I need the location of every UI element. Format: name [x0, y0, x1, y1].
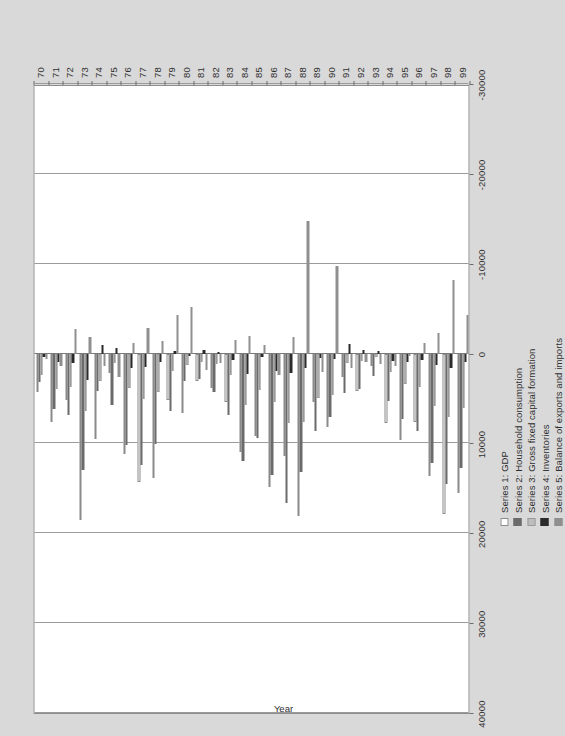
- bar-s4-99: [464, 354, 466, 362]
- bar-s3-79: [171, 354, 173, 371]
- year-group-82: [208, 86, 223, 713]
- year-tick-label: 97: [427, 67, 438, 78]
- year-tick-label: 82: [209, 67, 220, 78]
- year-tick-label: 84: [238, 67, 249, 78]
- year-tick-label: 91: [340, 67, 351, 78]
- bar-s5-85: [263, 345, 265, 354]
- value-tick-label: -30000: [475, 70, 486, 101]
- chart-figure: 400003000020000100000-10000-20000-30000 …: [0, 0, 565, 736]
- bar-s5-76: [132, 343, 134, 354]
- year-group-83: [223, 86, 238, 713]
- year-group-85: [252, 86, 267, 713]
- year-tick-83: [222, 81, 223, 85]
- year-tick-label: 81: [195, 67, 206, 78]
- year-group-84: [237, 86, 252, 713]
- year-tick-label: 79: [166, 67, 177, 78]
- bar-s5-77: [146, 328, 148, 354]
- year-group-92: [354, 86, 369, 713]
- bar-s5-87: [292, 337, 294, 354]
- year-tick-72: [62, 81, 63, 85]
- bar-s4-76: [130, 354, 132, 368]
- bar-s3-99: [462, 354, 464, 409]
- chart-legend: Series 1: GDPSeries 2: Household consump…: [498, 146, 565, 526]
- legend-label: Series 1: GDP: [498, 451, 509, 513]
- year-tick-label: 90: [325, 67, 336, 78]
- bar-s3-82: [215, 354, 217, 365]
- bar-s4-72: [71, 354, 73, 364]
- plot-area: [33, 85, 469, 714]
- year-tick-84: [236, 81, 237, 85]
- value-tick-label: 30000: [475, 610, 486, 637]
- bar-s3-75: [113, 354, 115, 364]
- year-tick-81: [193, 81, 194, 85]
- value-tick-label: 0: [475, 352, 486, 357]
- year-group-78: [150, 86, 165, 713]
- year-group-89: [310, 86, 325, 713]
- bar-s4-85: [260, 354, 262, 358]
- bars-layer: [34, 86, 468, 713]
- year-tick-label: 99: [456, 67, 467, 78]
- year-group-81: [194, 86, 209, 713]
- year-tick-98: [440, 81, 441, 85]
- bar-s3-93: [374, 354, 376, 358]
- year-group-88: [296, 86, 311, 713]
- year-group-90: [325, 86, 340, 713]
- year-group-73: [78, 86, 93, 713]
- year-tick-75: [106, 81, 107, 85]
- value-tick-20000: [469, 533, 473, 534]
- year-tick-74: [91, 81, 92, 85]
- year-tick-label: 96: [413, 67, 424, 78]
- year-tick-79: [164, 81, 165, 85]
- year-tick-96: [411, 81, 412, 85]
- year-group-94: [383, 86, 398, 713]
- bar-s5-98: [452, 280, 454, 354]
- year-group-70: [34, 86, 49, 713]
- bar-s4-84: [246, 354, 248, 375]
- year-group-99: [455, 86, 470, 713]
- legend-swatch-icon: [513, 518, 521, 526]
- bar-s5-82: [219, 354, 221, 363]
- bar-s5-79: [176, 315, 178, 354]
- legend-swatch-icon: [540, 518, 548, 526]
- year-group-95: [397, 86, 412, 713]
- bar-s5-99: [466, 315, 468, 354]
- year-tick-label: 71: [49, 67, 60, 78]
- bar-s5-91: [350, 354, 352, 368]
- year-tick-label: 70: [35, 67, 46, 78]
- year-axis-title: Year: [273, 703, 292, 714]
- bar-s4-87: [289, 354, 291, 374]
- bar-s4-78: [159, 354, 161, 362]
- bar-s4-73: [86, 354, 88, 380]
- bar-s3-85: [258, 354, 260, 391]
- year-tick-label: 76: [122, 67, 133, 78]
- year-tick-80: [178, 81, 179, 85]
- bar-s3-74: [98, 354, 100, 381]
- year-tick-label: 88: [296, 67, 307, 78]
- legend-item-1: Series 1: GDP: [498, 146, 509, 526]
- year-group-96: [412, 86, 427, 713]
- year-group-91: [339, 86, 354, 713]
- bar-s3-92: [360, 354, 362, 361]
- bar-s5-80: [190, 307, 192, 354]
- value-tick-label: 40000: [475, 700, 486, 727]
- year-group-87: [281, 86, 296, 713]
- year-tick-87: [280, 81, 281, 85]
- year-group-72: [63, 86, 78, 713]
- year-group-71: [49, 86, 64, 713]
- year-group-79: [165, 86, 180, 713]
- bar-s3-90: [331, 354, 333, 395]
- year-tick-label: 89: [311, 67, 322, 78]
- bar-s5-83: [234, 340, 236, 353]
- bar-s4-91: [348, 344, 350, 354]
- value-tick-40000: [469, 713, 473, 714]
- year-tick-label: 78: [151, 67, 162, 78]
- year-group-76: [121, 86, 136, 713]
- year-tick-93: [367, 81, 368, 85]
- year-group-74: [92, 86, 107, 713]
- bar-s4-88: [304, 354, 306, 368]
- value-tick--20000: [469, 174, 473, 175]
- year-tick-label: 86: [267, 67, 278, 78]
- year-tick-70: [33, 81, 34, 85]
- year-group-93: [368, 86, 383, 713]
- year-tick-85: [251, 81, 252, 85]
